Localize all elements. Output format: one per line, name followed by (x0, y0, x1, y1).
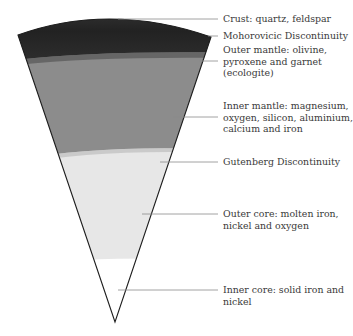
label-gutenberg: Gutenberg Discontinuity (223, 156, 340, 168)
label-inner-mantle-line2: oxygen, silicon, aluminium, (223, 112, 353, 124)
label-inner-core-line1: Inner core: solid iron and (223, 284, 344, 296)
label-outer-mantle-line1: Outer mantle: olivine, (223, 44, 327, 56)
label-inner-mantle-line3: calcium and iron (223, 123, 353, 135)
label-outer-mantle-line2: pyroxene and garnet (223, 56, 327, 68)
label-inner-core-line2: nickel (223, 296, 344, 308)
label-crust: Crust: quartz, feldspar (223, 13, 331, 25)
label-inner-mantle-line1: Inner mantle: magnesium, (223, 100, 353, 112)
label-inner-mantle: Inner mantle: magnesium, oxygen, silicon… (223, 100, 353, 135)
label-moho-line1: Mohorovicic Discontinuity (223, 30, 348, 42)
label-crust-line1: Crust: quartz, feldspar (223, 13, 331, 25)
label-outer-core-line1: Outer core: molten iron, (223, 208, 339, 220)
label-outer-mantle-line3: (ecologite) (223, 67, 327, 79)
label-gutenberg-line1: Gutenberg Discontinuity (223, 156, 340, 168)
mantle-layer (0, 0, 345, 164)
label-outer-core: Outer core: molten iron, nickel and oxyg… (223, 208, 339, 231)
label-moho: Mohorovicic Discontinuity (223, 30, 348, 42)
label-outer-core-line2: nickel and oxygen (223, 220, 339, 232)
label-inner-core: Inner core: solid iron and nickel (223, 284, 344, 307)
label-outer-mantle: Outer mantle: olivine, pyroxene and garn… (223, 44, 327, 79)
